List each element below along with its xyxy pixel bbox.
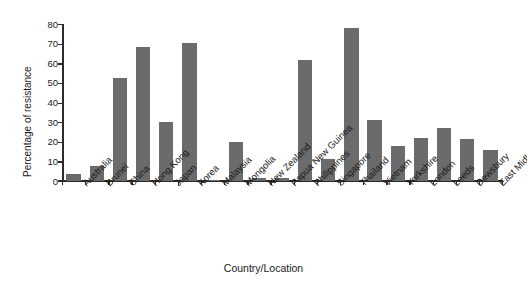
- x-tick-label: Leeds: [451, 181, 458, 188]
- x-tick-label: Korea: [196, 181, 203, 188]
- y-tick-mark: [58, 103, 63, 104]
- x-tick-label: East Midlands: [497, 181, 504, 188]
- y-tick-label: 60: [36, 59, 58, 69]
- y-tick-label: 0: [36, 177, 58, 187]
- x-tick-label: Papua New Guinea: [289, 181, 296, 188]
- x-tick-label: Dewsbury: [474, 181, 481, 188]
- x-tick-label: Japan: [173, 181, 180, 188]
- y-tick-label: 10: [36, 157, 58, 167]
- y-tick-label: 80: [36, 20, 58, 30]
- x-tick-label: Thailand: [358, 181, 365, 188]
- x-tick-label: Singapore: [335, 181, 342, 188]
- bar: [66, 174, 80, 181]
- y-tick-mark: [58, 83, 63, 84]
- x-tick-label: Philippines: [312, 181, 319, 188]
- x-tick-label: Yorkshire: [405, 181, 412, 188]
- y-tick-mark: [58, 44, 63, 45]
- x-tick-label: Australia: [81, 181, 88, 188]
- bar-chart-figure: Percentage of resistance 010203040506070…: [0, 0, 527, 298]
- x-tick-label: Vietnam: [382, 181, 389, 188]
- x-tick-label: London: [428, 181, 435, 188]
- x-tick-label: Mongolia: [243, 181, 250, 188]
- y-axis-tick-labels: 01020304050607080: [36, 19, 58, 181]
- x-tick-label: New Zealand: [266, 181, 273, 188]
- y-axis-title: Percentage of resistance: [22, 17, 36, 177]
- y-tick-mark: [58, 161, 63, 162]
- x-axis-title: Country/Location: [0, 262, 527, 274]
- x-tick-label: Hong Kong: [150, 181, 157, 188]
- y-tick-label: 20: [36, 137, 58, 147]
- x-axis-tick-labels: AustraliaBruneiChinaHong KongJapanKoreaM…: [62, 181, 522, 261]
- bar: [136, 47, 150, 180]
- y-tick-mark: [58, 122, 63, 123]
- y-tick-label: 70: [36, 39, 58, 49]
- y-tick-label: 30: [36, 118, 58, 128]
- y-tick-mark: [58, 24, 63, 25]
- y-tick-label: 40: [36, 98, 58, 108]
- y-tick-mark: [58, 142, 63, 143]
- y-tick-label: 50: [36, 78, 58, 88]
- x-tick-label: China: [127, 181, 134, 188]
- x-tick-label: Brunei: [104, 181, 111, 188]
- x-tick-label: Malaysia: [220, 181, 227, 188]
- y-tick-mark: [58, 63, 63, 64]
